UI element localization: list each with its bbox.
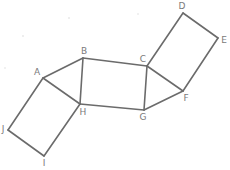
edge-FG <box>144 91 183 110</box>
speck <box>137 13 138 14</box>
vertex-label-B: B <box>81 46 87 56</box>
edge-EF <box>183 38 218 91</box>
edges-group <box>8 13 218 156</box>
speck <box>4 67 5 68</box>
vertex-label-F: F <box>183 93 188 103</box>
edge-BC <box>83 58 147 66</box>
vertex-label-H: H <box>80 107 87 117</box>
vertex-label-G: G <box>140 112 147 122</box>
scan-specks <box>4 13 138 68</box>
vertex-label-C: C <box>140 54 146 64</box>
vertex-label-D: D <box>179 1 186 11</box>
edge-DE <box>183 13 218 38</box>
edge-FC <box>147 66 183 91</box>
vertex-label-E: E <box>221 35 227 45</box>
edge-AB <box>43 58 83 78</box>
edge-AJ <box>8 78 43 130</box>
edge-AH <box>43 78 80 104</box>
vertex-label-A: A <box>34 67 41 77</box>
labels-group: ABCDEFGHIJ <box>1 1 227 168</box>
edge-CD <box>147 13 183 66</box>
vertex-label-I: I <box>43 158 46 168</box>
speck <box>68 17 70 19</box>
vertex-label-J: J <box>1 124 5 134</box>
edge-CG <box>144 66 147 110</box>
edge-JI <box>8 130 44 156</box>
geometry-figure: ABCDEFGHIJ <box>0 0 230 170</box>
edge-HB <box>80 58 83 104</box>
speck <box>22 35 24 37</box>
edge-IH <box>44 104 80 156</box>
edge-GH <box>80 104 144 110</box>
